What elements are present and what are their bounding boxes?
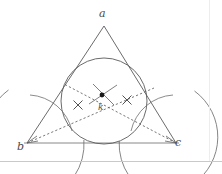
incenter-label-k: k [98, 103, 103, 112]
angle-bisector-from-b [27, 88, 154, 143]
triangle-side-ac [104, 26, 176, 143]
construction-arcs-c-small [131, 95, 173, 131]
vertex-label-c: c [175, 137, 181, 148]
arc-b-short-1 [30, 95, 72, 131]
arc-c-short-1 [131, 95, 173, 131]
geometry-figure: a b c k [0, 0, 222, 174]
congruence-tick-right [123, 96, 132, 105]
incenter-point [100, 93, 105, 98]
page-bottom-rule [0, 161, 222, 162]
vertex-label-b: b [17, 141, 24, 152]
page-right-rule [209, 0, 210, 161]
congruence-tick-left [74, 101, 83, 110]
construction-arcs-b-small [30, 95, 72, 131]
geometry-canvas [0, 0, 222, 174]
triangle-outline [24, 26, 179, 143]
arc-from-c-outer [119, 141, 158, 174]
vertex-label-a: a [99, 8, 106, 19]
angle-bisector-from-c [64, 84, 176, 143]
arc-from-b-outer [45, 140, 84, 174]
